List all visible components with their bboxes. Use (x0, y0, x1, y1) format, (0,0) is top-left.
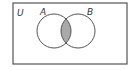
venn-diagram: U A B (0, 0, 130, 70)
set-a-label: A (39, 7, 46, 17)
set-b-label: B (87, 7, 93, 17)
universe-label: U (17, 8, 24, 18)
